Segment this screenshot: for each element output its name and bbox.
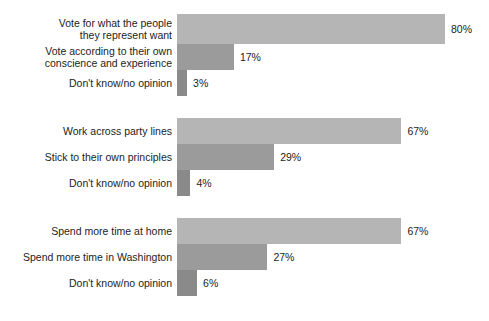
bar-category-label: Work across party lines — [0, 118, 172, 144]
bar-value-label: 67% — [407, 125, 428, 137]
bar-value-label: 27% — [273, 251, 294, 263]
bar-value-label: 4% — [196, 177, 211, 189]
bar — [177, 44, 234, 70]
bar-track — [177, 70, 187, 96]
bar-category-label: Spend more time in Washington — [0, 244, 172, 270]
bar — [177, 70, 187, 96]
bar-value-label: 17% — [240, 51, 261, 63]
bar-category-label: Vote for what the people they represent … — [0, 14, 172, 44]
bar-track — [177, 218, 401, 244]
horizontal-bar-chart: Vote for what the people they represent … — [0, 0, 489, 321]
bar-row: Don't know/no opinion4% — [0, 170, 489, 196]
bar — [177, 14, 445, 44]
bar — [177, 144, 274, 170]
bar-value-label: 3% — [193, 77, 208, 89]
bar-value-label: 67% — [407, 225, 428, 237]
bar-row: Stick to their own principles29% — [0, 144, 489, 170]
bar-category-label: Don't know/no opinion — [0, 170, 172, 196]
bar-row: Spend more time at home67% — [0, 218, 489, 244]
bar — [177, 270, 197, 296]
bar-row: Vote according to their own conscience a… — [0, 44, 489, 70]
bar-group-party-lines: Work across party lines67%Stick to their… — [0, 118, 489, 196]
bar-value-label: 29% — [280, 151, 301, 163]
bar-group-time-location: Spend more time at home67%Spend more tim… — [0, 218, 489, 296]
bar-group-representation: Vote for what the people they represent … — [0, 14, 489, 96]
bar-track — [177, 118, 401, 144]
bar — [177, 170, 190, 196]
bar-track — [177, 170, 190, 196]
bar-value-label: 6% — [203, 277, 218, 289]
bar-track — [177, 144, 274, 170]
bar-row: Don't know/no opinion6% — [0, 270, 489, 296]
bar-category-label: Don't know/no opinion — [0, 70, 172, 96]
bar-value-label: 80% — [451, 23, 472, 35]
bar-track — [177, 14, 445, 44]
bar-row: Spend more time in Washington27% — [0, 244, 489, 270]
bar-track — [177, 44, 234, 70]
bar-track — [177, 270, 197, 296]
bar-category-label: Vote according to their own conscience a… — [0, 44, 172, 70]
bar-category-label: Stick to their own principles — [0, 144, 172, 170]
bar — [177, 118, 401, 144]
bar-category-label: Don't know/no opinion — [0, 270, 172, 296]
bar — [177, 218, 401, 244]
bar-row: Don't know/no opinion3% — [0, 70, 489, 96]
bar-row: Work across party lines67% — [0, 118, 489, 144]
bar-row: Vote for what the people they represent … — [0, 14, 489, 44]
bar-track — [177, 244, 267, 270]
bar-category-label: Spend more time at home — [0, 218, 172, 244]
bar — [177, 244, 267, 270]
